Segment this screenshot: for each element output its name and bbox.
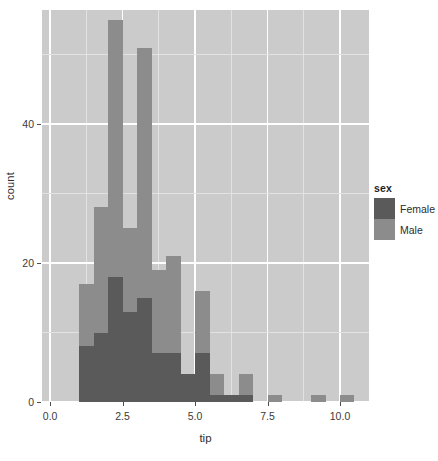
gridline-y-major: [42, 123, 369, 124]
y-tick-label: 20: [12, 258, 34, 269]
gridline-x-major: [49, 10, 50, 402]
legend-entries: FemaleMale: [374, 198, 436, 240]
histogram-bar-female: [137, 298, 151, 402]
y-axis-title: count: [4, 184, 16, 200]
x-axis-title: tip: [42, 432, 369, 444]
histogram-bar-female: [123, 312, 137, 402]
legend-entry-label: Male: [400, 224, 423, 236]
gridline-y-minor: [42, 54, 369, 55]
y-tick-label: 40: [12, 119, 34, 130]
legend-entry-label: Female: [400, 203, 435, 215]
gridline-x-minor: [231, 10, 232, 402]
histogram-bar-female: [152, 353, 166, 402]
x-tick-mark: [123, 402, 124, 406]
legend-title: sex: [374, 182, 436, 194]
gridline-x-major: [339, 10, 340, 402]
x-tick-label: 10.0: [320, 411, 360, 422]
x-tick-label: 7.5: [248, 411, 288, 422]
histogram-bar-male: [340, 395, 354, 402]
x-tick-label: 2.5: [103, 411, 143, 422]
x-tick-mark: [268, 402, 269, 406]
legend-key-swatch: [374, 219, 395, 240]
x-tick-label: 0.0: [30, 411, 70, 422]
histogram-bar-female: [224, 395, 238, 402]
y-tick-mark: [37, 402, 41, 403]
histogram-bar-female: [79, 346, 93, 402]
plot-panel: [42, 10, 369, 402]
legend-entry: Female: [374, 198, 436, 219]
chart-figure: count 02040 0.02.55.07.510.0 tip sex Fem…: [0, 0, 438, 461]
histogram-bar-male: [268, 395, 282, 402]
gridline-y-minor: [42, 193, 369, 194]
gridline-x-major: [267, 10, 268, 402]
x-tick-mark: [50, 402, 51, 406]
histogram-bar-female: [239, 395, 253, 402]
gridline-x-minor: [303, 10, 304, 402]
histogram-bar-female: [108, 277, 122, 402]
legend-key-swatch: [374, 198, 395, 219]
y-tick-label: 0: [12, 397, 34, 408]
legend-entry: Male: [374, 219, 436, 240]
y-tick-mark: [37, 263, 41, 264]
histogram-bar-female: [166, 353, 180, 402]
y-tick-mark: [37, 124, 41, 125]
histogram-bar-male: [311, 395, 325, 402]
histogram-bar-female: [195, 353, 209, 402]
histogram-bar-female: [94, 333, 108, 403]
legend: sex FemaleMale: [374, 182, 436, 240]
histogram-bar-female: [210, 395, 224, 402]
gridline-y-major: [42, 262, 369, 263]
x-tick-mark: [195, 402, 196, 406]
x-tick-mark: [340, 402, 341, 406]
x-tick-label: 5.0: [175, 411, 215, 422]
histogram-bar-female: [181, 374, 195, 402]
